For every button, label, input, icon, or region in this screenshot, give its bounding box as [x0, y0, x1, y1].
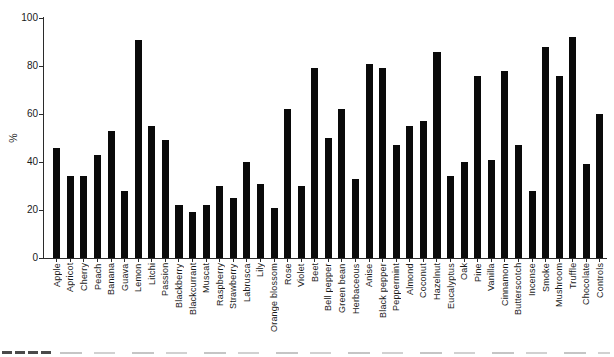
x-label-slot-oak: Oak — [457, 263, 471, 353]
bar-slot-chocolate — [580, 18, 594, 258]
bar-raspberry — [216, 186, 223, 258]
x-label-slot-muscat: Muscat — [199, 263, 213, 353]
x-label-cherry: Cherry — [79, 263, 89, 353]
x-tick-slot-pine — [471, 259, 485, 262]
x-tick-slot-peppermint — [389, 259, 403, 262]
x-label-green-bean: Green bean — [337, 263, 347, 353]
x-label-slot-black-pepper: Black pepper — [376, 263, 390, 353]
x-label-slot-anise: Anise — [362, 263, 376, 353]
x-tick-slot-eucalyptus — [444, 259, 458, 262]
x-label-oak: Oak — [459, 263, 469, 353]
x-tick-truffle — [572, 259, 573, 262]
x-label-slot-rose: Rose — [281, 263, 295, 353]
bar-slot-mushroom — [552, 18, 566, 258]
bar-slot-lemon — [131, 18, 145, 258]
cropped-caption-bold-fragment — [2, 351, 54, 354]
bar-almond — [406, 126, 413, 258]
x-tick-slot-green-bean — [335, 259, 349, 262]
bar-slot-green-bean — [335, 18, 349, 258]
x-label-black-pepper: Black pepper — [378, 263, 388, 353]
x-tick-slot-beet — [308, 259, 322, 262]
x-label-chocolate: Chocolate — [581, 263, 591, 353]
x-label-beet: Beet — [310, 263, 320, 353]
x-tick-slot-muscat — [199, 259, 213, 262]
x-tick-herbaceous — [355, 259, 356, 262]
x-label-slot-bell-pepper: Bell pepper — [322, 263, 336, 353]
x-tick-green-bean — [341, 259, 342, 262]
x-tick-slot-guava — [118, 259, 132, 262]
x-ticks — [50, 259, 607, 262]
bar-slot-guava — [118, 18, 132, 258]
x-label-vanilla: Vanilla — [486, 263, 496, 353]
x-tick-guava — [124, 259, 125, 262]
x-tick-beet — [314, 259, 315, 262]
y-axis-line — [43, 17, 44, 259]
x-label-slot-labrusca: Labrusca — [240, 263, 254, 353]
bar-guava — [121, 191, 128, 258]
x-tick-vanilla — [491, 259, 492, 262]
x-label-blackberry: Blackberry — [174, 263, 184, 353]
bar-vanilla — [488, 160, 495, 258]
bar-slot-apple — [50, 18, 64, 258]
bar-pine — [474, 76, 481, 258]
x-tick-slot-raspberry — [213, 259, 227, 262]
bar-orange-blossom — [271, 208, 278, 258]
y-tick-label-40: 40 — [6, 156, 38, 168]
x-label-slot-incense: Incense — [525, 263, 539, 353]
x-label-peppermint: Peppermint — [391, 263, 401, 353]
x-tick-labrusca — [246, 259, 247, 262]
y-tick-60 — [39, 114, 43, 115]
x-tick-slot-labrusca — [240, 259, 254, 262]
bar-slot-apricot — [64, 18, 78, 258]
bar-green-bean — [338, 109, 345, 258]
x-tick-slot-black-pepper — [376, 259, 390, 262]
bar-slot-anise — [362, 18, 376, 258]
x-label-slot-raspberry: Raspberry — [213, 263, 227, 353]
x-label-slot-herbaceous: Herbaceous — [349, 263, 363, 353]
y-tick-100 — [39, 18, 43, 19]
x-label-slot-vanilla: Vanilla — [485, 263, 499, 353]
bar-labrusca — [243, 162, 250, 258]
bar-oak — [461, 162, 468, 258]
x-tick-slot-apricot — [64, 259, 78, 262]
bar-slot-oak — [457, 18, 471, 258]
x-label-slot-beet: Beet — [308, 263, 322, 353]
x-tick-lily — [260, 259, 261, 262]
x-tick-slot-almond — [403, 259, 417, 262]
x-label-slot-peach: Peach — [91, 263, 105, 353]
x-tick-slot-hazelnut — [430, 259, 444, 262]
x-tick-hazelnut — [436, 259, 437, 262]
x-label-slot-blackcurrant: Blackcurrant — [186, 263, 200, 353]
bar-slot-blackberry — [172, 18, 186, 258]
x-label-slot-litchi: Litchi — [145, 263, 159, 353]
bar-slot-butterscotch — [512, 18, 526, 258]
y-tick-label-20: 20 — [6, 204, 38, 216]
x-tick-butterscotch — [518, 259, 519, 262]
bar-blackcurrant — [189, 212, 196, 258]
bar-chart-figure: % 020406080100 AppleApricotCherryPeachBa… — [0, 0, 614, 357]
x-tick-passion — [165, 259, 166, 262]
x-tick-slot-incense — [525, 259, 539, 262]
x-label-slot-butterscotch: Butterscotch — [512, 263, 526, 353]
x-tick-slot-lemon — [131, 259, 145, 262]
x-tick-slot-butterscotch — [512, 259, 526, 262]
x-tick-chocolate — [586, 259, 587, 262]
x-label-slot-truffle: Truffle — [566, 263, 580, 353]
x-tick-slot-orange-blossom — [267, 259, 281, 262]
x-label-slot-controls: Controls — [593, 263, 607, 353]
x-label-slot-pine: Pine — [471, 263, 485, 353]
bar-slot-cherry — [77, 18, 91, 258]
y-axis-title: % — [3, 127, 23, 149]
x-label-butterscotch: Butterscotch — [513, 263, 523, 353]
x-label-slot-cherry: Cherry — [77, 263, 91, 353]
y-tick-20 — [39, 210, 43, 211]
x-label-slot-almond: Almond — [403, 263, 417, 353]
y-tick-0 — [39, 258, 43, 259]
bar-herbaceous — [352, 179, 359, 258]
x-tick-apricot — [70, 259, 71, 262]
x-tick-slot-coconut — [417, 259, 431, 262]
x-label-peach: Peach — [93, 263, 103, 353]
bar-peppermint — [393, 145, 400, 258]
bar-muscat — [203, 205, 210, 258]
bar-controls — [596, 114, 603, 258]
